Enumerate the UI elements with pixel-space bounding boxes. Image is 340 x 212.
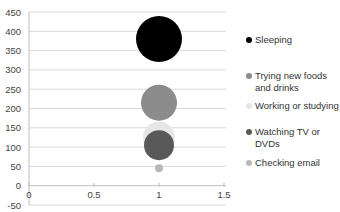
- bubbles: [136, 16, 182, 172]
- y-tick-label: 450: [5, 7, 21, 18]
- legend-item-sleeping[interactable]: Sleeping: [246, 34, 340, 46]
- legend-swatch-icon: [246, 129, 252, 135]
- legend-label: Sleeping: [255, 34, 292, 45]
- legend-label: Working or studying: [255, 100, 339, 111]
- y-tick-label: 50: [10, 161, 21, 172]
- y-tick-label: 0: [16, 180, 21, 191]
- legend-label: Checking email: [255, 157, 320, 168]
- legend-label: Trying new foods and drinks: [255, 70, 327, 93]
- y-tick-label: 200: [5, 103, 21, 114]
- y-tick-label: 250: [5, 84, 21, 95]
- x-tick-label: 1: [156, 189, 161, 200]
- legend-item-watching-tv[interactable]: Watching TV or DVDs: [246, 126, 340, 150]
- y-tick-label: 150: [5, 122, 21, 133]
- legend-item-checking-email[interactable]: Checking email: [246, 157, 340, 169]
- x-tick-label: 0: [26, 189, 31, 200]
- x-tick-label: 0.5: [87, 189, 100, 200]
- legend-swatch-icon: [246, 73, 252, 79]
- bubble-watching-tv-or-dvds[interactable]: [144, 130, 174, 160]
- y-tick-label: 300: [5, 64, 21, 75]
- y-tick-label: 100: [5, 142, 21, 153]
- y-tick-label: 350: [5, 45, 21, 56]
- y-axis: 450400350300250200150100500-50: [5, 7, 29, 211]
- legend-item-trying-new-foods[interactable]: Trying new foods and drinks: [246, 70, 340, 94]
- legend-swatch-icon: [246, 160, 252, 166]
- gridlines: [29, 12, 226, 205]
- legend-label: Watching TV or DVDs: [255, 126, 320, 149]
- bubble-checking-email[interactable]: [155, 164, 163, 172]
- legend-item-working-or-studying[interactable]: Working or studying: [246, 100, 340, 112]
- y-tick-label: 400: [5, 26, 21, 37]
- bubble-trying-new-foods-and-drinks[interactable]: [141, 85, 177, 121]
- legend-swatch-icon: [246, 37, 252, 43]
- legend-swatch-icon: [246, 103, 252, 109]
- x-tick-label: 1.5: [217, 189, 230, 200]
- bubble-sleeping[interactable]: [136, 16, 182, 62]
- y-tick-label: -50: [7, 200, 21, 211]
